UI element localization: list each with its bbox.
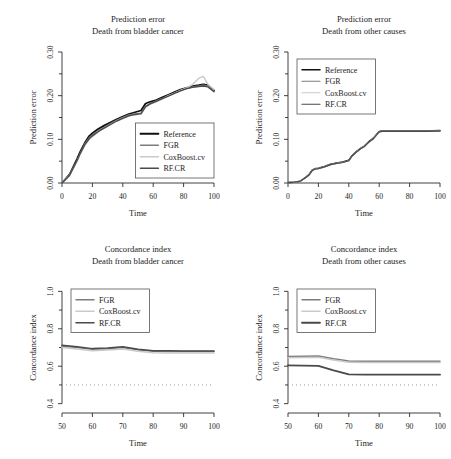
y-axis-label: Prediction error — [254, 90, 264, 144]
panel-title-line2: Death from bladder cancer — [92, 26, 184, 36]
y-axis-tick-label: 0.20 — [272, 89, 281, 103]
y-axis-tick-label: 0.30 — [272, 45, 281, 59]
series-line-rf-cr — [288, 365, 440, 374]
panel-bottom-left-svg: Concordance indexDeath from bladder canc… — [0, 230, 226, 459]
x-axis-tick-label: 0 — [60, 192, 64, 201]
x-axis-tick-label: 60 — [314, 422, 322, 431]
legend-label-reference: Reference — [163, 130, 196, 139]
panel-top-right-svg: Prediction errorDeath from other causes0… — [226, 0, 451, 230]
y-axis-label: Prediction error — [28, 90, 38, 144]
panel-title-line1: Prediction error — [336, 14, 390, 24]
x-axis-tick-label: 80 — [149, 422, 157, 431]
y-axis-label: Concordance index — [254, 313, 264, 380]
y-axis-tick-label: 0.00 — [272, 176, 281, 190]
x-axis-tick-label: 50 — [284, 422, 292, 431]
y-axis-tick-label: 0.10 — [272, 132, 281, 146]
x-axis-tick-label: 70 — [119, 422, 127, 431]
y-axis-tick-label: 0.8 — [46, 323, 55, 333]
legend-label-rf-cr: RF.CR — [325, 318, 347, 327]
x-axis-tick-label: 60 — [89, 422, 97, 431]
legend: ReferenceFGRCoxBoost.cvRF.CR — [297, 59, 376, 114]
y-axis-tick-label: 0.30 — [46, 45, 55, 59]
series-line-coxboost-cv — [288, 131, 440, 183]
y-axis-tick-label: 1.0 — [46, 286, 55, 296]
x-axis-tick-label: 100 — [208, 192, 220, 201]
legend-label-reference: Reference — [325, 66, 358, 75]
panel-bottom-right-svg: Concordance indexDeath from other causes… — [226, 230, 451, 459]
panel-top-left: Prediction errorDeath from bladder cance… — [0, 0, 226, 230]
x-axis-tick-label: 100 — [434, 192, 446, 201]
x-axis-tick-label: 40 — [119, 192, 127, 201]
x-axis-label: Time — [355, 208, 373, 218]
series-line-reference — [288, 131, 440, 183]
x-axis-tick-label: 50 — [58, 422, 66, 431]
panel-title-line1: Prediction error — [111, 14, 165, 24]
x-axis-tick-label: 60 — [149, 192, 157, 201]
legend-label-fgr: FGR — [325, 295, 341, 304]
legend-label-coxboost-cv: CoxBoost.cv — [99, 307, 141, 316]
y-axis-tick-label: 0.00 — [46, 176, 55, 190]
legend-label-coxboost-cv: CoxBoost.cv — [325, 89, 367, 98]
panel-bottom-right: Concordance indexDeath from other causes… — [226, 230, 451, 459]
panel-top-left-svg: Prediction errorDeath from bladder cance… — [0, 0, 226, 230]
y-axis-tick-label: 0.20 — [46, 89, 55, 103]
x-axis-label: Time — [129, 438, 147, 448]
y-axis-tick-label: 0.6 — [272, 361, 281, 371]
legend: ReferenceFGRCoxBoost.cvRF.CR — [135, 123, 214, 178]
x-axis-tick-label: 20 — [314, 192, 322, 201]
legend-label-fgr: FGR — [163, 141, 179, 150]
y-axis-tick-label: 0.4 — [46, 398, 55, 408]
legend-label-rf-cr: RF.CR — [325, 100, 347, 109]
legend-label-coxboost-cv: CoxBoost.cv — [163, 153, 205, 162]
legend-label-fgr: FGR — [325, 77, 341, 86]
x-axis-label: Time — [129, 208, 147, 218]
legend: FGRCoxBoost.cvRF.CR — [297, 289, 376, 333]
x-axis-tick-label: 80 — [375, 422, 383, 431]
x-axis-tick-label: 20 — [89, 192, 97, 201]
x-axis-label: Time — [355, 438, 373, 448]
panel-bottom-left: Concordance indexDeath from bladder canc… — [0, 230, 226, 459]
x-axis-tick-label: 100 — [434, 422, 446, 431]
legend-label-fgr: FGR — [99, 295, 115, 304]
x-axis-tick-label: 80 — [405, 192, 413, 201]
figure-canvas: Prediction errorDeath from bladder cance… — [0, 0, 451, 459]
legend-label-rf-cr: RF.CR — [99, 318, 121, 327]
x-axis-tick-label: 70 — [344, 422, 352, 431]
x-axis-tick-label: 90 — [180, 422, 188, 431]
y-axis-tick-label: 1.0 — [272, 286, 281, 296]
legend: FGRCoxBoost.cvRF.CR — [71, 289, 150, 333]
x-axis-tick-label: 90 — [405, 422, 413, 431]
y-axis-tick-label: 0.6 — [46, 361, 55, 371]
panel-top-right: Prediction errorDeath from other causes0… — [226, 0, 451, 230]
x-axis-tick-label: 0 — [286, 192, 290, 201]
x-axis-tick-label: 40 — [344, 192, 352, 201]
x-axis-tick-label: 100 — [208, 422, 220, 431]
series-line-fgr — [288, 131, 440, 183]
legend-label-rf-cr: RF.CR — [163, 164, 185, 173]
series-line-rf-cr — [288, 131, 440, 183]
panel-title-line2: Death from bladder cancer — [92, 256, 184, 266]
y-axis-tick-label: 0.4 — [272, 398, 281, 408]
panel-title-line2: Death from other causes — [322, 256, 406, 266]
panel-title-line1: Concordance index — [105, 244, 172, 254]
x-axis-tick-label: 80 — [180, 192, 188, 201]
legend-label-coxboost-cv: CoxBoost.cv — [325, 307, 367, 316]
panel-title-line1: Concordance index — [330, 244, 397, 254]
x-axis-tick-label: 60 — [375, 192, 383, 201]
y-axis-tick-label: 0.8 — [272, 323, 281, 333]
y-axis-tick-label: 0.10 — [46, 132, 55, 146]
y-axis-label: Concordance index — [28, 313, 38, 380]
panel-title-line2: Death from other causes — [322, 26, 406, 36]
